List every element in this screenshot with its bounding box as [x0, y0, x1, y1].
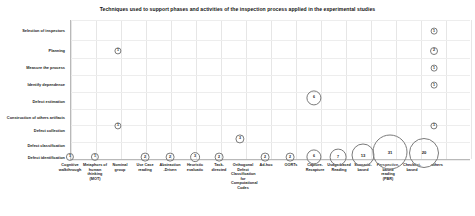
- gridline-horizontal: [71, 20, 470, 21]
- bubble-value-label: 1: [433, 124, 435, 128]
- bubble-value-label: 6: [313, 155, 315, 159]
- x-label-oorts: OORTs: [281, 163, 301, 168]
- x-label-metaphors-of-human-thinking: Metaphors of human thinking (MOT): [83, 163, 107, 181]
- bubble-value-label: 2: [218, 155, 220, 159]
- y-label-defect-collection: Defect collection: [3, 129, 65, 134]
- gridline-horizontal: [71, 75, 470, 76]
- bubble-adhoc-defect-identification[interactable]: 2: [261, 153, 270, 162]
- bubble-value-label: 2: [433, 49, 435, 53]
- bubble-scenario-based-defect-identification[interactable]: 13: [352, 144, 375, 167]
- bubble-value-label: 2: [264, 155, 266, 159]
- bubble-value-label: 2: [169, 155, 171, 159]
- bubble-value-label: 1: [69, 155, 71, 159]
- bubble-value-label: 13: [361, 153, 366, 157]
- x-label-task-directed: Task- directed: [209, 163, 229, 172]
- bubble-heuristic-evaluation-defect-identification[interactable]: 3: [190, 152, 200, 162]
- y-label-selection-of-inspectors: Selection of inspectors: [3, 29, 65, 34]
- y-label-construction-of-others-artifacts: Construction of others artifacts: [3, 116, 65, 121]
- gridline-horizontal: [71, 125, 470, 126]
- gridline-horizontal: [71, 142, 470, 143]
- bubble-pbr-defect-identification[interactable]: 31: [373, 135, 408, 170]
- bubble-chart: Techniques used to support phases and ac…: [0, 0, 475, 216]
- x-axis-label-group: Cognitive walkthroughMetaphors of human …: [70, 163, 470, 215]
- x-label-nominal-group: Nominal group: [109, 163, 131, 172]
- bubble-oorts-defect-identification[interactable]: 2: [286, 153, 295, 162]
- bubble-value-label: 2: [289, 155, 291, 159]
- bubble-value-label: 1: [433, 66, 435, 70]
- y-label-measure-the-process: Measure the process: [3, 66, 65, 71]
- gridline-vertical: [471, 20, 472, 159]
- gridline-horizontal: [71, 40, 470, 41]
- x-label-abstraction-driven: Abstraction -Driven: [159, 163, 182, 172]
- y-label-planning: Planning: [3, 49, 65, 54]
- x-label-capture-recapture: Capture- Recapture: [304, 163, 327, 172]
- gridline-horizontal: [71, 58, 470, 59]
- bubble-value-label: 7: [337, 155, 339, 159]
- bubble-value-label: 3: [239, 137, 241, 141]
- bubble-value-label: 1: [117, 124, 119, 128]
- chart-title: Techniques used to support phases and ac…: [0, 6, 475, 13]
- x-label-heuristic-evaluatic: Heuristic evaluatic: [184, 163, 206, 172]
- bubble-value-label: 2: [144, 155, 146, 159]
- bubble-value-label: 1: [94, 155, 96, 159]
- y-axis-label-group: Selection of inspectorsPlanningMeasure t…: [0, 20, 68, 160]
- bubble-value-label: 6: [313, 96, 315, 100]
- y-label-defect-identification: Defect identification: [3, 156, 65, 161]
- bubble-value-label: 1: [433, 83, 435, 87]
- bubble-checklist-based-defect-identification[interactable]: 20: [409, 138, 439, 168]
- x-label-use-case-reading: Use Case reading: [134, 163, 156, 172]
- x-label-cognitive-walkthrough: Cognitive walkthrough: [58, 163, 82, 172]
- x-label-orthogonal-defect-classification: Orthogonal Defect Classification for Com…: [231, 163, 255, 191]
- bubble-others-measure-process[interactable]: 1: [431, 65, 438, 72]
- y-label-identify-dependence: Identify dependence: [3, 83, 65, 88]
- bubble-others-planning[interactable]: 2: [430, 47, 438, 55]
- gridline-horizontal: [71, 92, 470, 93]
- y-label-defect-classification: Defect classification: [3, 144, 65, 149]
- gridline-horizontal: [71, 109, 470, 110]
- y-label-defect-estimation: Defect estimation: [3, 100, 65, 105]
- bubble-abstraction-driven-defect-identification[interactable]: 2: [166, 153, 175, 162]
- bubble-others-selection-inspectors[interactable]: 1: [431, 28, 438, 35]
- bubble-value-label: 1: [117, 49, 119, 53]
- bubble-value-label: 3: [194, 155, 196, 159]
- bubble-others-identify-dependence[interactable]: 1: [431, 82, 438, 89]
- x-label-ad-hoc: Ad-hoc: [256, 163, 276, 168]
- bubble-usecase-reading-defect-identification[interactable]: 2: [141, 153, 150, 162]
- plot-area: [70, 20, 470, 160]
- bubble-task-directed-defect-identification[interactable]: 2: [215, 153, 224, 162]
- bubble-value-label: 20: [422, 151, 427, 155]
- bubble-value-label: 1: [433, 29, 435, 33]
- bubble-usage-based-reading-defect-identification[interactable]: 7: [330, 149, 347, 166]
- bubble-value-label: 31: [388, 150, 393, 154]
